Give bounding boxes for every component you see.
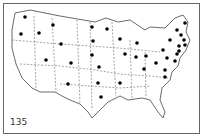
map-marker [23,15,27,19]
map-marker [118,37,122,41]
map-marker [69,61,73,65]
map-marker [142,67,146,71]
map-marker [118,81,122,85]
figure-number: 135 [10,117,27,127]
us-outline [12,10,190,118]
map-marker [90,25,94,29]
map-marker [163,68,167,72]
map-marker [182,38,186,42]
map-marker [51,23,55,27]
map-marker [183,43,187,47]
map-marker [123,52,127,56]
map-marker [134,55,138,59]
map-marker [173,59,177,63]
map-marker [19,32,23,36]
map-marker [183,21,187,25]
map-marker [97,65,101,69]
map-marker [175,52,179,56]
map-marker [144,54,148,58]
map-marker [96,81,100,85]
map-marker [168,38,172,42]
map-marker [161,48,165,52]
map-marker [59,42,63,46]
map-marker [90,53,94,57]
map-marker [177,49,181,53]
map-marker [66,82,70,86]
us-map [0,0,204,137]
map-marker [165,56,169,60]
map-marker [44,58,48,62]
map-marker [177,44,181,48]
map-marker [91,39,95,43]
map-marker [179,33,183,37]
map-marker [175,28,179,32]
map-marker [163,75,167,79]
map-marker [37,31,41,35]
map-marker [105,27,109,31]
map-marker [99,95,103,99]
map-marker [135,41,139,45]
map-marker [154,61,158,65]
